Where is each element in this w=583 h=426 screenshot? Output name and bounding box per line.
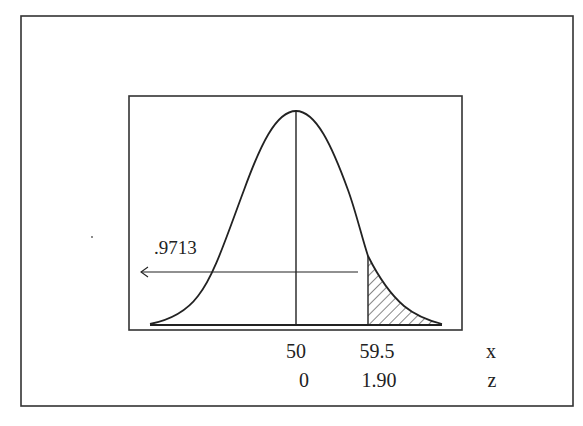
shaded-tail-region <box>368 256 442 326</box>
x-axis-label: x <box>486 340 496 362</box>
z-axis-label: z <box>488 369 497 391</box>
z-tick-cutoff: 1.90 <box>362 369 397 391</box>
area-label: .9713 <box>154 237 197 258</box>
stray-dot <box>91 236 93 238</box>
x-tick-cutoff: 59.5 <box>360 340 395 362</box>
normal-curve-figure: .9713 50 59.5 x 0 1.90 z <box>0 0 583 426</box>
x-tick-mean: 50 <box>286 340 306 362</box>
z-tick-mean: 0 <box>299 369 309 391</box>
